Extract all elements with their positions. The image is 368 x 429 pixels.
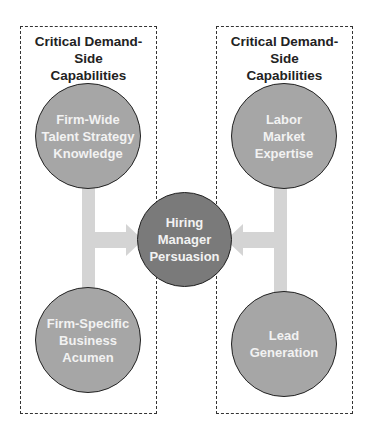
left-arrow-icon bbox=[95, 224, 143, 256]
node-lead-generation: Lead Generation bbox=[231, 291, 337, 397]
node-label: Hiring Manager Persuasion bbox=[149, 214, 219, 265]
node-label: Lead Generation bbox=[250, 327, 319, 361]
node-label: Firm-Specific Business Acumen bbox=[47, 315, 129, 366]
node-label: Labor Market Expertise bbox=[255, 111, 314, 162]
node-hiring-manager-persuasion: Hiring Manager Persuasion bbox=[137, 192, 232, 287]
node-labor-market-expertise: Labor Market Expertise bbox=[231, 83, 337, 189]
node-firm-wide-talent-strategy: Firm-Wide Talent Strategy Knowledge bbox=[35, 83, 141, 189]
node-firm-specific-business-acumen: Firm-Specific Business Acumen bbox=[35, 287, 141, 393]
right-arrow-icon bbox=[226, 224, 274, 256]
node-label: Firm-Wide Talent Strategy Knowledge bbox=[42, 111, 135, 162]
